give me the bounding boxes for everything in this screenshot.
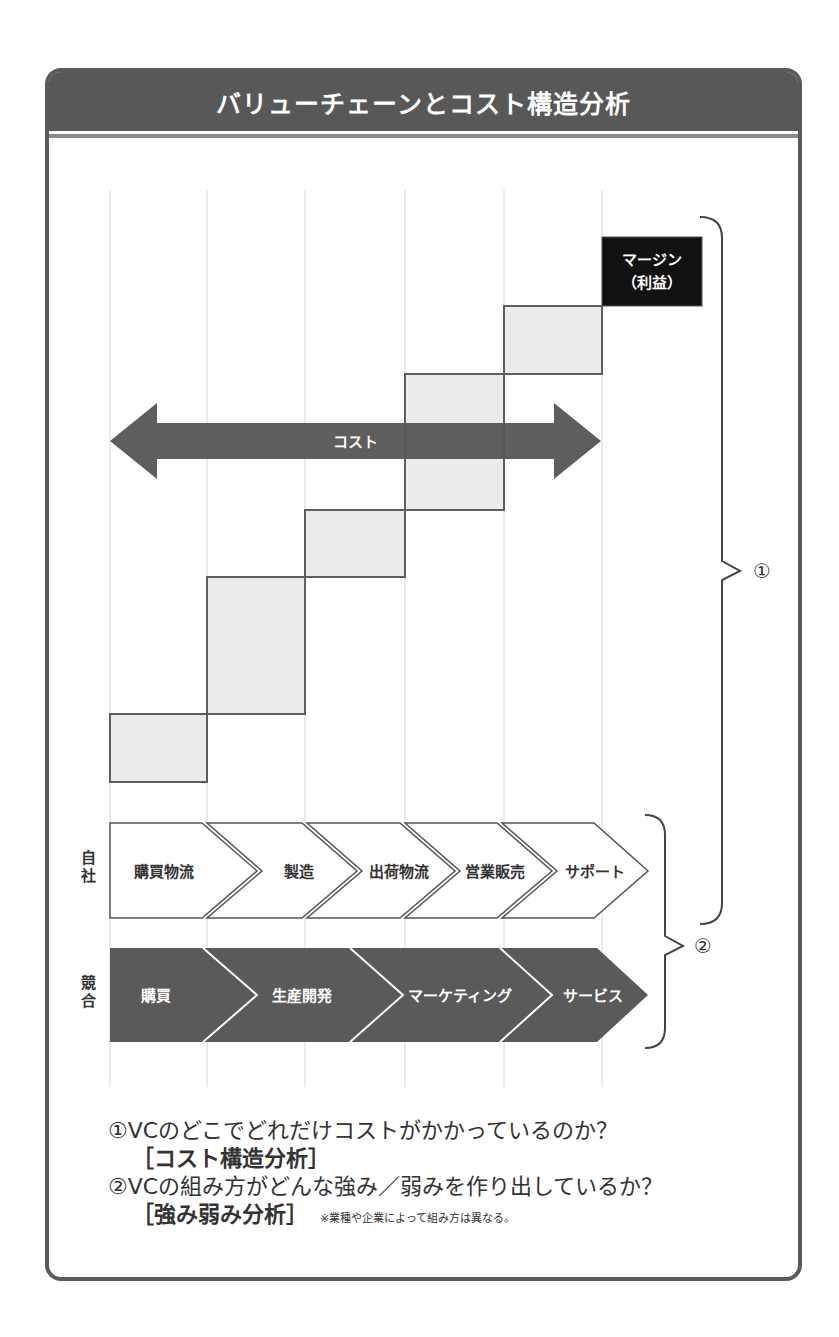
competitor-row-label-line1: 競 [81,974,96,992]
competitor-row-label-line2: 合 [80,992,97,1010]
margin-box [602,237,702,306]
own-segment-3-label: 出荷物流 [369,863,429,881]
bracket-one-label: ① [753,559,771,583]
competitor-segment-3-label: マーケティング [408,987,512,1005]
competitor-segment-4-label: サービス [563,987,623,1005]
bracket-one-icon [700,217,740,924]
margin-label-line1: マージン [622,251,682,269]
cost-box-outbound [305,510,405,577]
bracket-two-label: ② [694,934,712,958]
note-tag-2-row: ［強み弱み分析］※業種や企業によって組み方は異なる。 [108,1201,663,1233]
own-segment-2-label: 製造 [283,863,314,881]
margin-label-line2: （利益） [622,274,682,292]
notes-block: ①VCのどこでどれだけコストがかかっているのか？ ［コスト構造分析］ ②VCの組… [108,1117,663,1233]
note-footnote: ※業種や企業によって組み方は異なる。 [320,1212,515,1225]
note-question-1: ①VCのどこでどれだけコストがかかっているのか？ [108,1117,663,1145]
own-segment-1-label: 購買物流 [133,863,194,881]
cost-box-support [504,306,602,374]
own-row-label-line2: 社 [80,867,96,885]
bracket-two-icon [645,815,683,1048]
note-tag-1: ［コスト構造分析］ [108,1145,663,1173]
note-tag-2: ［強み弱み分析］ [132,1202,308,1227]
cost-arrow-label: コスト [333,433,378,451]
competitor-segment-2-label: 生産開発 [272,987,333,1005]
cost-box-production [207,577,305,714]
cost-box-inbound [110,714,207,782]
own-row-label-line1: 自 [81,849,96,867]
cost-staircase [110,306,602,782]
own-segment-4-label: 営業販売 [465,863,525,881]
note-question-2: ②VCの組み方がどんな強み／弱みを作り出しているか？ [108,1173,663,1201]
own-segment-5-label: サポート [565,863,625,881]
competitor-segment-1-label: 購買 [140,987,171,1005]
